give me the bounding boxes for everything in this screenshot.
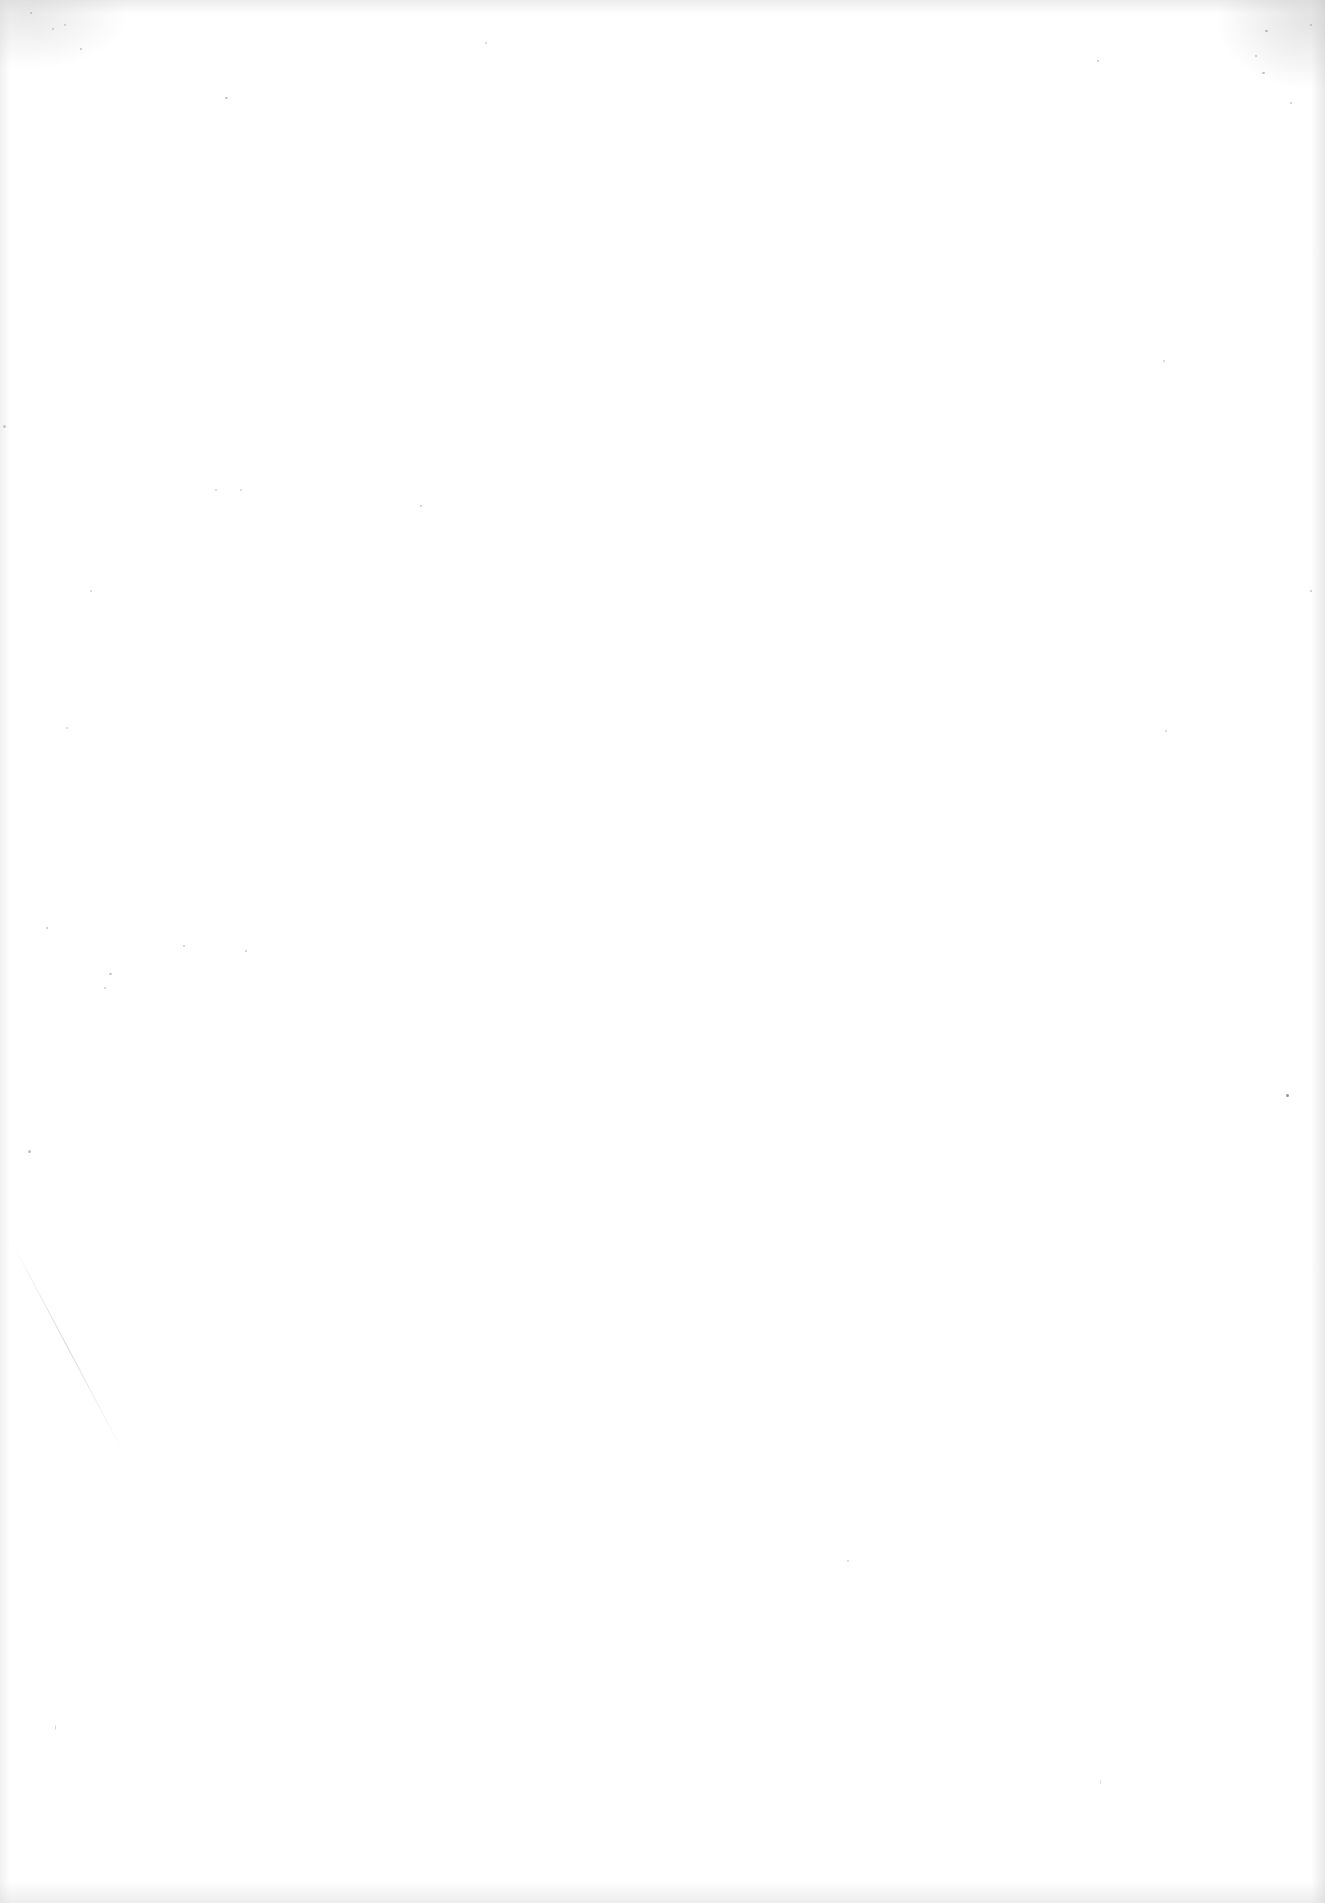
scan-noise-corner-top-left <box>0 0 130 70</box>
scan-noise-corner-top-right <box>1215 0 1325 90</box>
blank-scanned-page <box>0 0 1325 1903</box>
scan-shading-right <box>1311 0 1325 1903</box>
scan-scratch-line <box>10 1240 124 1452</box>
scan-shading-top <box>0 0 1325 14</box>
scan-shading-bottom <box>0 1881 1325 1903</box>
scan-shading-left <box>0 0 10 1903</box>
